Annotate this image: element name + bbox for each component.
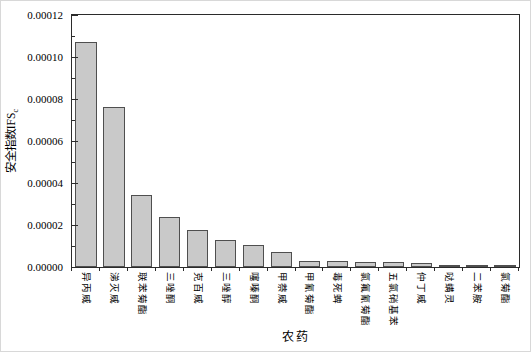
chart-figure: 安全指数IFSc 农药 0.000000.000020.000040.00006… [0,0,531,352]
y-tick-label: 0.00008 [27,94,63,105]
x-category-label: 涕灭威 [109,272,119,305]
bar-联苯菊酯 [131,195,152,267]
x-category-label: 异丙威 [81,272,91,305]
x-tick [71,268,72,271]
x-category-label: 氯菊酯 [500,272,510,305]
x-tick [127,268,128,271]
x-category-label: 五氯硝基苯 [388,272,398,327]
bar-甲氰菊酯 [299,261,320,267]
x-tick [350,268,351,271]
y-tick-label: 0.00010 [27,52,63,63]
y-tick-label: 0.00000 [27,262,63,273]
x-tick [183,268,184,271]
bar-哒螨灵 [439,265,460,267]
x-category-label: 仲丁威 [416,272,426,305]
x-tick [267,268,268,271]
x-tick [406,268,407,271]
y-major-tick [72,225,78,226]
y-tick-label: 0.00004 [27,178,63,189]
y-minor-tick [72,246,75,247]
bar-三唑酮 [159,217,180,267]
y-major-tick [72,57,78,58]
bar-五氯硝基苯 [383,262,404,267]
x-tick [322,268,323,271]
x-tick [99,268,100,271]
bar-仲丁威 [411,263,432,267]
bar-涕灭威 [103,107,124,267]
x-axis-title: 农药 [71,327,520,345]
bar-二苯胺 [466,265,487,267]
bar-氯菊酯 [494,265,515,267]
x-category-label: 联苯菊酯 [137,272,147,316]
x-category-label: 三唑酮 [165,272,175,305]
x-tick [518,268,519,271]
x-tick [434,268,435,271]
y-tick-label: 0.00002 [27,220,63,231]
x-category-label: 甲氰菊酯 [304,272,314,316]
x-tick [462,268,463,271]
plot-area [71,14,520,268]
x-category-label: 二苯胺 [472,272,482,305]
x-tick [295,268,296,271]
y-minor-tick [72,78,75,79]
bar-噻嗪酮 [243,245,264,267]
y-minor-tick [72,120,75,121]
bar-异丙威 [75,42,96,267]
x-category-label: 甲萘威 [277,272,287,305]
y-major-tick [72,141,78,142]
x-tick [490,268,491,271]
x-category-label: 克百威 [193,272,203,305]
y-axis-title-subscript: c [11,109,20,113]
y-major-tick [72,183,78,184]
x-category-label: 三唑醇 [221,272,231,305]
bar-氯氟氰菊酯 [355,262,376,267]
x-category-label: 毒死蜱 [332,272,342,305]
x-tick [211,268,212,271]
y-minor-tick [72,36,75,37]
y-major-tick [72,15,78,16]
x-category-label: 氯氟氰菊酯 [360,272,370,327]
x-tick [155,268,156,271]
y-axis-title-text: 安全指数IFSc [2,109,20,173]
x-tick [239,268,240,271]
bar-甲萘威 [271,252,292,267]
y-major-tick [72,99,78,100]
y-tick-label: 0.00012 [27,10,63,21]
x-tick [378,268,379,271]
x-category-label: 噻嗪酮 [249,272,259,305]
x-category-label: 哒螨灵 [444,272,454,305]
y-minor-tick [72,204,75,205]
y-minor-tick [72,162,75,163]
bar-毒死蜱 [327,261,348,267]
bar-克百威 [187,230,208,267]
bar-三唑醇 [215,240,236,267]
y-tick-label: 0.00006 [27,136,63,147]
y-axis-title: 安全指数IFSc [1,14,21,268]
